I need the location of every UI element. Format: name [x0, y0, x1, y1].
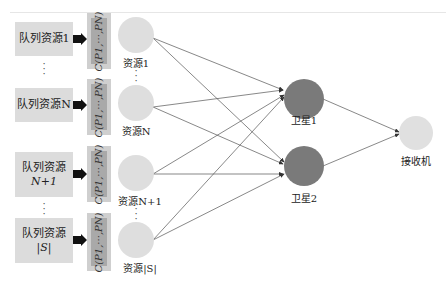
satellite-label-2: 卫星2 — [291, 190, 317, 205]
edge — [153, 97, 284, 240]
edge — [323, 134, 399, 166]
satellite-label-1: 卫星1 — [291, 112, 317, 127]
resource-node-1 — [118, 17, 154, 53]
receiver-node — [399, 116, 433, 150]
satellite-node-2 — [284, 146, 324, 186]
resource-node-s — [118, 222, 154, 258]
resource-node-n — [118, 85, 154, 121]
edge — [153, 38, 284, 162]
ellipsis-icon: ··· — [131, 68, 141, 83]
edge — [153, 174, 284, 240]
edge — [153, 95, 284, 174]
resource-label-n: 资源N — [122, 123, 151, 138]
edge — [153, 90, 283, 107]
network-graph — [0, 0, 446, 282]
edge — [153, 38, 283, 90]
edge — [323, 99, 399, 132]
resource-label-s: 资源|S| — [123, 260, 157, 275]
edge — [153, 107, 283, 164]
resource-node-n-plus-1 — [118, 155, 154, 191]
ellipsis-icon: ··· — [131, 206, 141, 221]
receiver-label: 接收机 — [401, 153, 431, 168]
